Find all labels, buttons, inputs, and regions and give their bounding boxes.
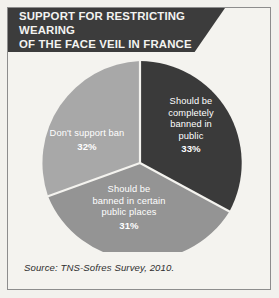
pie-chart: Should be completely banned in public 33… (8, 52, 271, 252)
slice-label-certain-places: Should be banned in certain public place… (74, 184, 184, 231)
slice-label-completely-banned: Should be completely banned in public 33… (148, 96, 234, 155)
source-note: Source: TNS-Sofres Survey, 2010. (24, 262, 174, 273)
slice-label-dont-support: Don't support ban 32% (30, 128, 144, 152)
slice-label-percent: 32% (30, 141, 144, 153)
page-title: SUPPORT FOR RESTRICTING WEARING OF THE F… (8, 8, 208, 52)
slice-label-text: Should be banned in certain public place… (92, 184, 165, 217)
slice-label-text: Should be completely banned in public (168, 96, 213, 141)
infographic-card: SUPPORT FOR RESTRICTING WEARING OF THE F… (0, 0, 279, 298)
slice-label-percent: 31% (74, 220, 184, 232)
slice-label-text: Don't support ban (50, 128, 125, 138)
slice-label-percent: 33% (148, 143, 234, 155)
